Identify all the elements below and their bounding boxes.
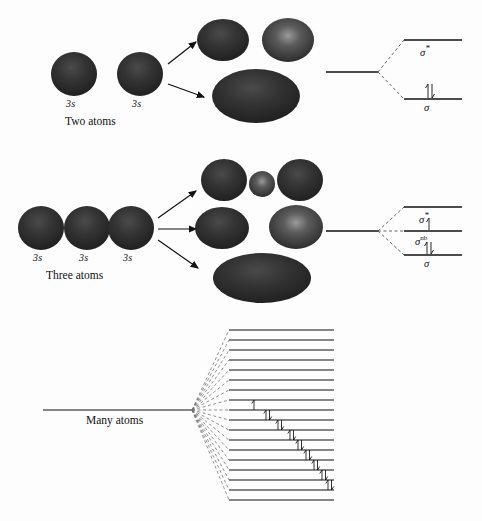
mo-lobe-antibonding-left	[201, 159, 247, 201]
caption-three-atoms: Three atoms	[46, 270, 103, 282]
electron-pair-level-9	[326, 480, 334, 490]
atom-sphere-3s-2	[64, 206, 110, 250]
electron-pair-level-6	[304, 450, 312, 460]
two-atoms-energy-level-diagram	[326, 40, 462, 99]
correlation-line-down	[378, 231, 404, 255]
level-label-sigma-star-three: σ*	[419, 211, 429, 225]
nb-superscript: nb	[420, 234, 427, 242]
two-atoms-atomic-orbitals	[51, 52, 163, 96]
atom-sphere-3s-1	[51, 52, 97, 96]
arrow-to-bonding	[158, 240, 198, 268]
two-atoms-arrows	[168, 42, 204, 97]
electron-pair-level-3	[276, 420, 284, 430]
mo-lobe-bonding	[213, 253, 311, 303]
correlation-line-up	[378, 40, 404, 72]
level-label-sigma-two: σ	[424, 103, 429, 114]
mo-lobe-antibonding-right	[277, 159, 323, 201]
mo-lobe-antibonding-left	[197, 19, 249, 61]
three-atoms-molecular-orbitals	[195, 159, 323, 303]
caption-two-atoms: Two atoms	[65, 116, 116, 128]
atomic-orbital-label-3s-2: 3s	[132, 99, 141, 109]
mo-lobe-nonbonding-right	[269, 205, 323, 249]
three-atoms-atomic-orbitals	[18, 206, 154, 250]
arrow-to-bonding	[168, 84, 204, 97]
electron-pair-level-7	[312, 460, 320, 470]
level-label-sigma-three: σ	[424, 259, 429, 270]
atom-sphere-3s-3	[108, 206, 154, 250]
star-glyph: *	[424, 210, 429, 220]
mo-lobe-antibonding-right	[262, 18, 314, 62]
electron-pair-level-4	[288, 430, 296, 440]
mo-lobe-antibonding-middle	[249, 171, 275, 197]
electron-single-level-1	[252, 400, 254, 410]
electron-pair-level-5	[296, 440, 304, 450]
band-electrons	[252, 400, 334, 490]
mo-lobe-nonbonding-left	[195, 207, 249, 249]
star-glyph: *	[425, 43, 430, 53]
level-label-sigma-nb-three: σnb	[415, 235, 427, 247]
level-label-sigma-star-two: σ*	[420, 44, 430, 58]
atom-sphere-3s-1	[18, 206, 64, 250]
three-atoms-arrows	[158, 191, 198, 268]
electron-pair-level-8	[320, 470, 328, 480]
band-level-lines	[229, 330, 334, 500]
atomic-orbital-label-3s-1: 3s	[33, 253, 42, 263]
molecular-orbital-band-diagram: 3s 3s Two atoms σ* σ 3s 3s 3s Three atom…	[0, 0, 482, 521]
atomic-orbital-label-3s-2: 3s	[79, 253, 88, 263]
arrow-to-antibonding	[168, 42, 196, 64]
sigma-glyph: σ	[424, 102, 429, 113]
two-atoms-molecular-orbitals	[197, 18, 314, 123]
electron-pair-sigma	[426, 84, 435, 98]
electron-pair-level-2	[264, 410, 272, 420]
atomic-orbital-label-3s-3: 3s	[123, 253, 132, 263]
diagram-graphics	[0, 0, 482, 521]
atomic-orbital-label-3s-1: 3s	[66, 99, 75, 109]
band-fan-lines	[192, 330, 229, 500]
caption-many-atoms: Many atoms	[86, 415, 143, 427]
atom-sphere-3s-2	[117, 52, 163, 96]
mo-lobe-bonding	[212, 69, 300, 123]
correlation-line-up	[378, 207, 404, 231]
sigma-glyph: σ	[424, 258, 429, 269]
arrow-to-antibonding	[158, 191, 196, 218]
three-atoms-energy-level-diagram	[326, 207, 462, 255]
correlation-line-down	[378, 72, 404, 99]
